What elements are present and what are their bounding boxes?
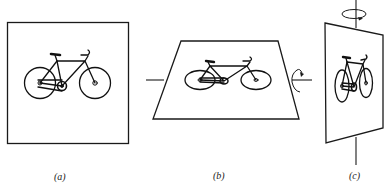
bicycle-icon (25, 50, 111, 99)
figure-canvas (0, 0, 388, 187)
panel-label-b: (b) (213, 171, 225, 181)
rotation-figure: (a) (b) (c) (0, 0, 388, 187)
panel-label-a: (a) (54, 172, 66, 182)
panel-b (146, 41, 312, 119)
panel-c (325, 0, 383, 165)
rotation-arrow-icon (342, 10, 366, 19)
panel-label-c: (c) (349, 171, 360, 181)
panel-a (8, 23, 129, 144)
